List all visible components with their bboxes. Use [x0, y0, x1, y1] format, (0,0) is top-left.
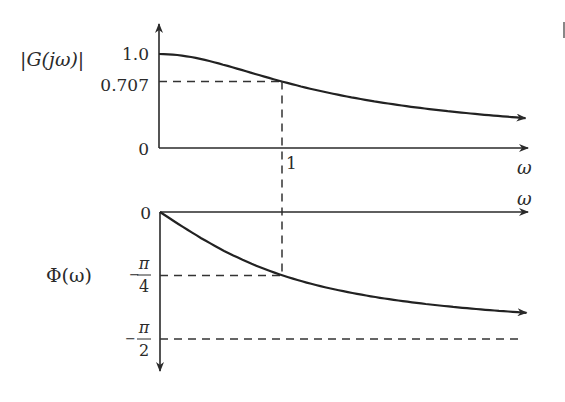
phase-y-label: Φ(ω)	[46, 264, 92, 286]
magnitude-curve	[159, 54, 526, 118]
denominator-4: 4	[139, 277, 149, 296]
magnitude-x-label: ω	[517, 157, 532, 178]
magnitude-ytick-1: 1.0	[122, 44, 149, 64]
magnitude-ytick-0707: 0.707	[100, 75, 149, 95]
magnitude-xtick-1: 1	[286, 153, 297, 173]
phase-ytick-minus-pi-over-2: − π 2	[125, 318, 151, 360]
phase-curve	[160, 212, 527, 313]
magnitude-ytick-0: 0	[138, 139, 149, 159]
phase-ytick-minus-pi-over-4: − π 4	[129, 254, 151, 296]
denominator-2: 2	[139, 341, 149, 360]
phase-ytick-0: 0	[140, 203, 151, 223]
phase-plot: Φ(ω) 0 − π 4 − π 2 ω	[46, 188, 532, 371]
minus-sign: −	[125, 331, 136, 346]
pi-numerator: π	[138, 254, 150, 273]
magnitude-y-label: |G(jω)|	[20, 48, 84, 71]
bode-plot: |G(jω)| 1.0 0.707 0 1 ω Φ(ω) 0 − π 4 − π…	[0, 0, 565, 402]
pi-numerator: π	[138, 318, 150, 337]
phase-x-label: ω	[517, 188, 532, 209]
magnitude-plot: |G(jω)| 1.0 0.707 0 1 ω	[20, 24, 532, 178]
